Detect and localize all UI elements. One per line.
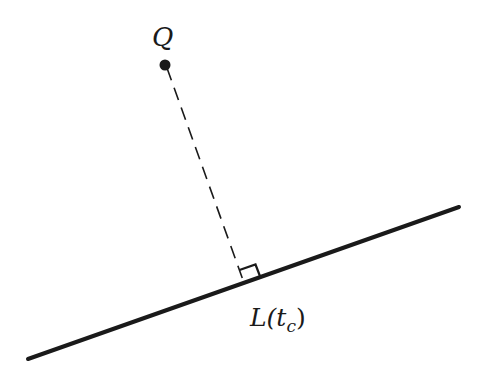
label-foot-main: L(t xyxy=(249,303,287,332)
point-Q xyxy=(160,60,171,71)
line-L xyxy=(28,207,459,359)
perpendicular-dashed-segment xyxy=(167,68,243,280)
label-foot-subscript: c xyxy=(286,316,296,336)
label-foot-close: ) xyxy=(296,303,306,332)
diagram-canvas: Q L(tc) xyxy=(0,0,481,381)
right-angle-marker xyxy=(240,265,261,278)
label-foot: L(tc) xyxy=(249,303,306,336)
label-Q: Q xyxy=(152,22,173,52)
